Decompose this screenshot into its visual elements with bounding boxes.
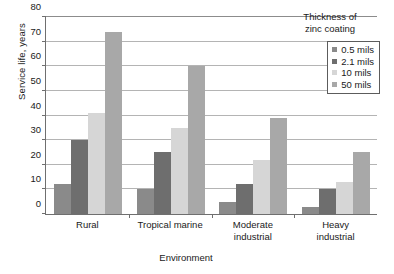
y-axis-tick-mark — [42, 213, 46, 214]
bar — [88, 113, 105, 214]
legend-swatch-icon — [332, 70, 337, 75]
y-axis-tick-mark — [42, 115, 46, 116]
bar — [302, 207, 319, 214]
y-axis-tick-label: 40 — [30, 99, 41, 110]
bar — [253, 160, 270, 214]
bar — [188, 66, 205, 214]
bar — [353, 152, 370, 214]
legend-item[interactable]: 10 mils — [332, 67, 374, 79]
y-axis-tick-label: 10 — [30, 173, 41, 184]
bar — [336, 182, 353, 214]
y-axis-tick-label: 0 — [36, 198, 41, 209]
y-axis-tick-mark — [42, 41, 46, 42]
legend-swatch-icon — [332, 47, 337, 52]
bar — [319, 189, 336, 214]
legend-item[interactable]: 50 mils — [332, 79, 374, 91]
y-axis-tick-mark — [42, 188, 46, 189]
x-axis-category-labels: RuralTropical marineModerateindustrialHe… — [46, 219, 377, 242]
legend-item[interactable]: 2.1 mils — [332, 56, 374, 68]
bar-chart-figure: Service life, years 01020304050607080 Ru… — [0, 0, 394, 274]
label-line: Rural — [46, 219, 129, 231]
legend-item-label: 50 mils — [341, 79, 371, 90]
legend-item[interactable]: 0.5 mils — [332, 44, 374, 56]
bar — [270, 118, 287, 214]
legend-title-line: Thickness of — [274, 11, 386, 23]
legend-item-label: 2.1 mils — [341, 56, 374, 67]
y-axis-tick-label: 50 — [30, 74, 41, 85]
y-axis-tick-mark — [42, 164, 46, 165]
bar — [105, 32, 122, 214]
x-axis-category-label: Tropical marine — [129, 219, 212, 242]
y-axis-tick-label: 20 — [30, 148, 41, 159]
legend-swatch-icon — [332, 59, 337, 64]
label-line: Heavy — [294, 219, 377, 231]
y-axis-tick-label: 60 — [30, 50, 41, 61]
label-line: Tropical marine — [129, 219, 212, 231]
bar-group — [212, 17, 295, 214]
bar — [71, 140, 88, 214]
x-axis-tick-mark — [294, 214, 295, 218]
y-axis-tick-label: 70 — [30, 25, 41, 36]
y-axis-tick-mark — [42, 65, 46, 66]
bar — [54, 184, 71, 214]
label-line: Moderate — [212, 219, 295, 231]
y-axis-tick-mark — [42, 139, 46, 140]
label-line: industrial — [212, 231, 295, 243]
x-axis-category-label: Moderateindustrial — [212, 219, 295, 242]
x-axis-tick-mark — [129, 214, 130, 218]
x-axis-category-label: Heavyindustrial — [294, 219, 377, 242]
bar — [236, 184, 253, 214]
legend-item-label: 0.5 mils — [341, 44, 374, 55]
bar-group — [47, 17, 130, 214]
y-axis-tick-mark — [42, 16, 46, 17]
legend-item-label: 10 mils — [341, 67, 371, 78]
legend-box: 0.5 mils2.1 mils10 mils50 mils — [327, 41, 380, 94]
y-axis-tick-label: 80 — [30, 1, 41, 12]
bar — [219, 202, 236, 214]
x-axis-title: Environment — [40, 252, 332, 263]
bar — [171, 128, 188, 214]
y-axis-tick-label: 30 — [30, 124, 41, 135]
y-axis-title: Service life, years — [16, 0, 27, 137]
legend-swatch-icon — [332, 82, 337, 87]
bar — [154, 152, 171, 214]
y-axis-tick-mark — [42, 90, 46, 91]
legend-title: Thickness ofzinc coating — [274, 11, 386, 34]
x-axis-tick-mark — [212, 214, 213, 218]
bar-group — [130, 17, 213, 214]
label-line: industrial — [294, 231, 377, 243]
legend-title-line: zinc coating — [274, 23, 386, 35]
x-axis-category-label: Rural — [46, 219, 129, 242]
bar — [137, 189, 154, 214]
